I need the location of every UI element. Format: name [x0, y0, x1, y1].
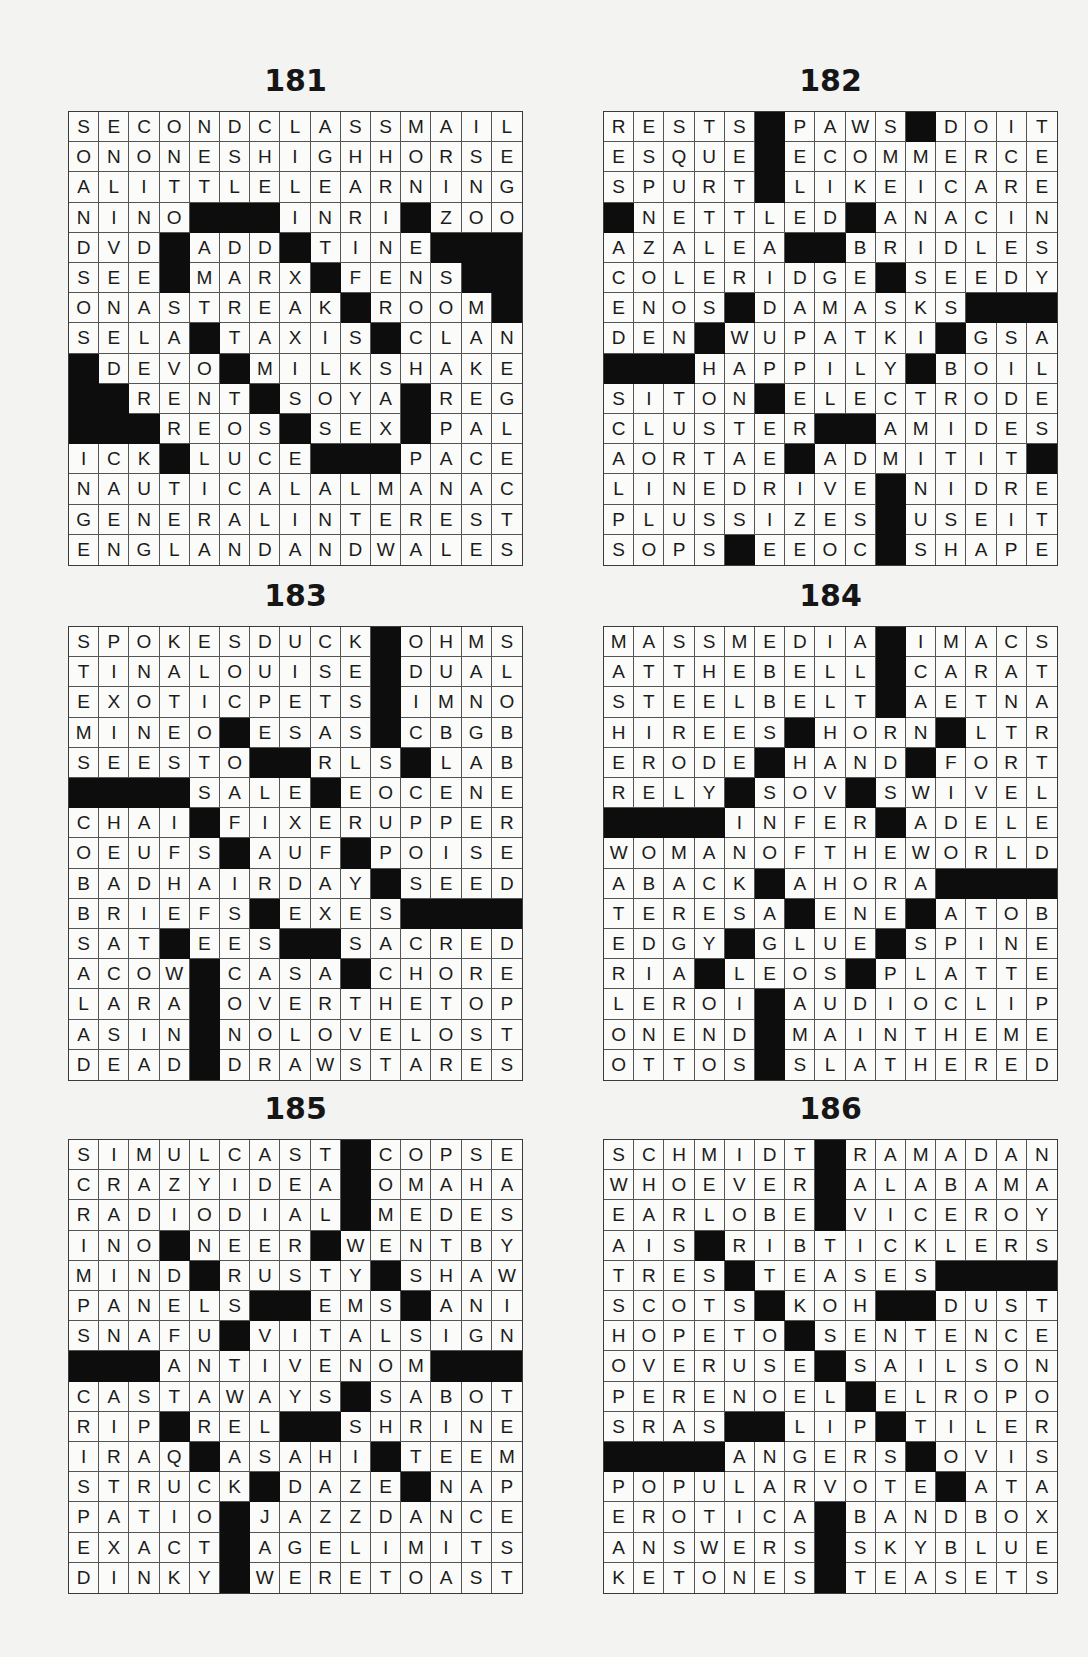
letter-cell: O — [462, 1382, 492, 1412]
letter-cell: L — [664, 778, 694, 808]
letter-cell: K — [341, 627, 371, 657]
letter-cell: I — [936, 778, 966, 808]
letter-cell: I — [906, 233, 936, 263]
letter-cell: X — [280, 808, 310, 838]
letter-cell: S — [755, 718, 785, 748]
letter-cell: A — [966, 172, 996, 202]
letter-cell: D — [129, 869, 159, 899]
letter-cell: F — [785, 838, 815, 868]
letter-cell: T — [1027, 112, 1057, 142]
letter-cell: S — [785, 1533, 815, 1563]
black-square — [936, 718, 966, 748]
letter-cell: T — [664, 657, 694, 687]
letter-cell: C — [695, 869, 725, 899]
letter-cell: N — [634, 1020, 664, 1050]
letter-cell: R — [604, 959, 634, 989]
letter-cell: N — [966, 1321, 996, 1351]
letter-cell: T — [311, 687, 341, 717]
letter-cell: L — [280, 474, 310, 504]
letter-cell: A — [401, 1382, 431, 1412]
letter-cell: F — [220, 808, 250, 838]
letter-cell: S — [997, 1291, 1027, 1321]
letter-cell: S — [906, 535, 936, 565]
letter-cell: H — [664, 1140, 694, 1170]
letter-cell: L — [966, 1412, 996, 1442]
letter-cell: O — [755, 1382, 785, 1412]
letter-cell: M — [250, 354, 280, 384]
letter-cell: N — [431, 1502, 461, 1532]
letter-cell: T — [220, 1351, 250, 1381]
letter-cell: L — [250, 778, 280, 808]
letter-cell: A — [906, 869, 936, 899]
letter-cell: A — [311, 1170, 341, 1200]
letter-cell: T — [220, 384, 250, 414]
letter-cell: R — [99, 1170, 129, 1200]
black-square — [280, 1412, 310, 1442]
black-square — [190, 959, 220, 989]
letter-cell: E — [966, 1231, 996, 1261]
letter-cell: C — [311, 627, 341, 657]
letter-cell: A — [936, 203, 966, 233]
letter-cell: T — [695, 112, 725, 142]
black-square — [341, 1170, 371, 1200]
letter-cell: V — [725, 1170, 755, 1200]
letter-cell: S — [604, 1412, 634, 1442]
letter-cell: N — [462, 778, 492, 808]
letter-cell: E — [604, 142, 634, 172]
black-square — [311, 778, 341, 808]
letter-cell: S — [695, 293, 725, 323]
letter-cell: E — [1027, 172, 1057, 202]
letter-cell: S — [846, 505, 876, 535]
letter-cell: L — [401, 1020, 431, 1050]
letter-cell: E — [966, 808, 996, 838]
letter-cell: B — [755, 1200, 785, 1230]
letter-cell: H — [401, 959, 431, 989]
black-square — [876, 1412, 906, 1442]
letter-cell: T — [906, 384, 936, 414]
black-square — [371, 1442, 401, 1472]
letter-cell: A — [401, 474, 431, 504]
letter-cell: E — [462, 869, 492, 899]
letter-cell: R — [341, 808, 371, 838]
letter-cell: D — [725, 1020, 755, 1050]
letter-cell: O — [160, 203, 190, 233]
letter-cell: D — [160, 1050, 190, 1080]
letter-cell: T — [966, 959, 996, 989]
letter-cell: A — [129, 808, 159, 838]
black-square — [725, 293, 755, 323]
letter-cell: E — [462, 1442, 492, 1472]
letter-cell: W — [604, 838, 634, 868]
letter-cell: N — [1027, 203, 1057, 233]
letter-cell: X — [371, 414, 401, 444]
letter-cell: R — [966, 838, 996, 868]
letter-cell: L — [664, 263, 694, 293]
letter-cell: O — [431, 959, 461, 989]
letter-cell: B — [431, 718, 461, 748]
letter-cell: A — [311, 112, 341, 142]
letter-cell: G — [785, 1442, 815, 1472]
letter-cell: T — [160, 474, 190, 504]
letter-cell: E — [462, 535, 492, 565]
letter-cell: O — [604, 1050, 634, 1080]
letter-cell: A — [725, 1442, 755, 1472]
letter-cell: C — [462, 444, 492, 474]
black-square — [462, 233, 492, 263]
letter-cell: N — [129, 203, 159, 233]
letter-cell: U — [160, 1472, 190, 1502]
black-square — [755, 142, 785, 172]
letter-cell: W — [220, 1382, 250, 1412]
letter-cell: C — [815, 142, 845, 172]
letter-cell: L — [604, 989, 634, 1019]
letter-cell: S — [876, 293, 906, 323]
letter-cell: E — [725, 748, 755, 778]
letter-cell: I — [815, 1412, 845, 1442]
letter-cell: A — [69, 172, 99, 202]
letter-cell: O — [695, 989, 725, 1019]
letter-cell: I — [431, 1533, 461, 1563]
letter-cell: T — [1027, 505, 1057, 535]
letter-cell: R — [250, 1050, 280, 1080]
letter-cell: S — [371, 748, 401, 778]
letter-cell: T — [129, 929, 159, 959]
letter-cell: H — [634, 1170, 664, 1200]
letter-cell: F — [160, 838, 190, 868]
